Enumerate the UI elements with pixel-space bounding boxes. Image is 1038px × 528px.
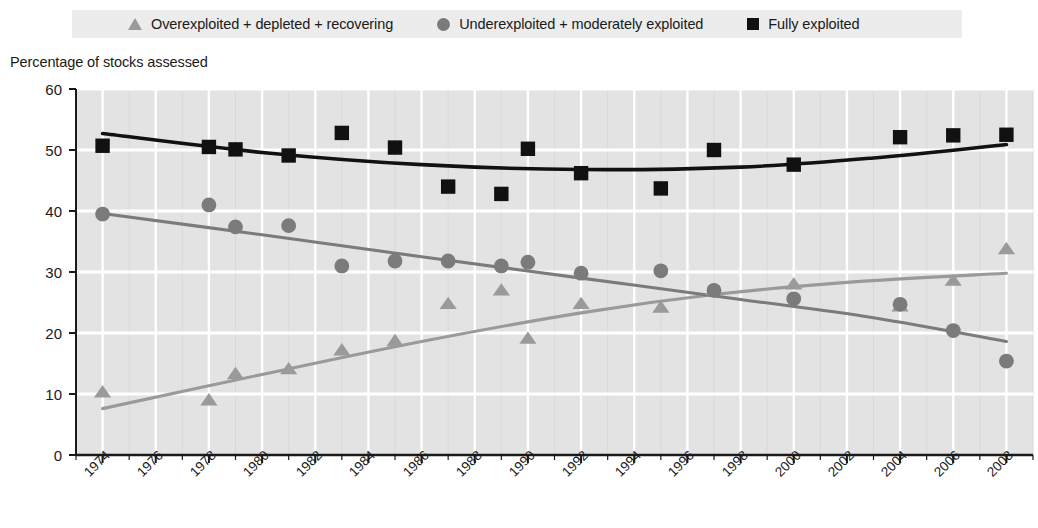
y-tick-label: 0 <box>14 447 62 464</box>
x-tick-label: 1988 <box>453 448 485 480</box>
x-tick-label: 2008 <box>984 448 1016 480</box>
y-tick-label: 20 <box>14 325 62 342</box>
x-tick-label: 1998 <box>719 448 751 480</box>
y-tick-label: 40 <box>14 203 62 220</box>
x-tick-label: 1978 <box>187 448 219 480</box>
y-tick-label: 60 <box>14 81 62 98</box>
x-tick-label: 1974 <box>81 448 113 480</box>
x-tick-label: 2002 <box>825 448 857 480</box>
x-tick-label: 1982 <box>293 448 325 480</box>
x-tick-label: 1996 <box>665 448 697 480</box>
x-tick-label: 2004 <box>878 448 910 480</box>
x-tick-label: 1992 <box>559 448 591 480</box>
x-tick-label: 1984 <box>346 448 378 480</box>
y-tick-label: 50 <box>14 142 62 159</box>
x-tick-label: 1980 <box>240 448 272 480</box>
x-tick-label: 2006 <box>931 448 963 480</box>
x-tick-label: 1994 <box>612 448 644 480</box>
y-tick-label: 30 <box>14 264 62 281</box>
x-tick-label: 1976 <box>134 448 166 480</box>
y-tick-label: 10 <box>14 386 62 403</box>
x-tick-label: 1986 <box>400 448 432 480</box>
axis-label-layer: 0102030405060197419761978198019821984198… <box>0 0 1038 528</box>
x-tick-label: 2000 <box>772 448 804 480</box>
x-tick-label: 1990 <box>506 448 538 480</box>
